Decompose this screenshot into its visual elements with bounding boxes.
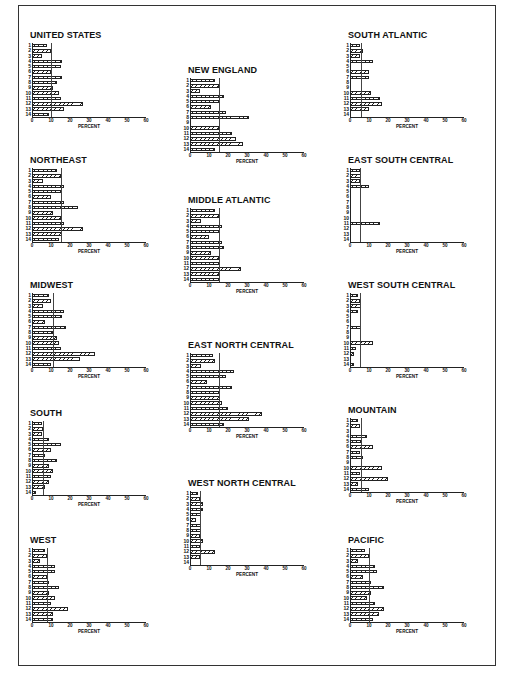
x-tick-label: 30 [404,368,409,373]
x-tick-label: 50 [442,493,447,498]
bar [350,179,360,183]
bar [32,91,59,95]
bar [32,195,51,199]
bar [190,219,201,223]
bar [350,559,358,563]
x-axis-label: PERCENT [236,572,258,577]
bar [190,492,198,496]
panel-title: MIDDLE ATLANTIC [188,195,271,205]
bar [32,174,61,178]
bar [32,185,64,189]
x-tick-label: 20 [385,118,390,123]
bar [32,310,64,314]
category-label: 14 [180,422,189,427]
bar [190,386,232,390]
x-tick-label: 40 [423,243,428,248]
bar [190,380,207,384]
category-label: 14 [340,362,349,367]
bar [350,222,380,226]
bar [190,539,203,543]
x-tick-label: 60 [143,118,148,123]
x-tick-label: 50 [282,153,287,158]
x-tick-label: 10 [366,368,371,373]
bar [190,84,219,88]
x-axis-label: PERCENT [78,629,100,634]
bar [32,320,45,324]
bar [32,448,51,452]
x-tick-label: 40 [263,428,268,433]
bar [32,179,43,183]
bar [32,211,53,215]
bar [32,86,53,90]
bar [32,216,61,220]
x-tick-label: 60 [461,368,466,373]
category-label: 14 [22,112,31,117]
bar [350,341,373,345]
bar [350,424,360,428]
bar [32,422,42,426]
x-tick-label: 10 [206,283,211,288]
bar [32,570,55,574]
reference-line [61,168,62,242]
x-tick-label: 40 [263,153,268,158]
bar [32,618,53,622]
x-tick-label: 30 [244,428,249,433]
bar [32,554,47,558]
bar [190,555,200,559]
x-tick-label: 40 [105,368,110,373]
bar [350,102,382,106]
x-tick-label: 10 [366,118,371,123]
bar [190,375,226,379]
x-tick-label: 0 [31,496,34,501]
x-tick-label: 20 [67,496,72,501]
bar [32,432,42,436]
x-tick-label: 60 [143,368,148,373]
bar [32,206,78,210]
bar [190,79,215,83]
y-axis [190,353,191,427]
x-tick-label: 20 [67,243,72,248]
x-tick-label: 60 [461,243,466,248]
bar [190,148,215,152]
panel-title: MOUNTAIN [348,405,397,415]
bar [32,304,43,308]
x-axis-label: PERCENT [78,374,100,379]
y-axis [32,43,33,117]
x-axis-label: PERCENT [78,249,100,254]
bar-rows: 1234567891011121314 [178,353,318,427]
bar [32,559,40,563]
category-label: 14 [22,362,31,367]
x-tick-label: 0 [189,283,192,288]
x-tick-label: 10 [366,493,371,498]
x-tick-label: 0 [31,623,34,628]
bar [350,107,369,111]
x-tick-label: 40 [423,623,428,628]
bar [190,116,249,120]
bar [32,341,59,345]
bar [190,256,219,260]
bar-rows: 1234567891011121314 [178,208,318,282]
bar [190,396,220,400]
bar [350,347,356,351]
x-tick-label: 60 [143,243,148,248]
bar [32,427,43,431]
reference-line [200,491,201,565]
x-tick-label: 10 [366,243,371,248]
bar-rows: 1234567891011121314 [20,168,160,242]
bar-rows: 1234567891011121314 [178,78,318,152]
bar [32,438,49,442]
bar [350,294,358,298]
reference-line [43,421,44,495]
x-tick-label: 0 [31,118,34,123]
bar [350,586,384,590]
reference-line [53,293,54,367]
bar [190,209,215,213]
y-axis [32,421,33,495]
x-tick-label: 40 [263,283,268,288]
x-tick-label: 30 [86,243,91,248]
reference-line [51,43,52,117]
bar [190,497,200,501]
bar [350,299,360,303]
bar [32,222,64,226]
x-tick-label: 50 [442,623,447,628]
